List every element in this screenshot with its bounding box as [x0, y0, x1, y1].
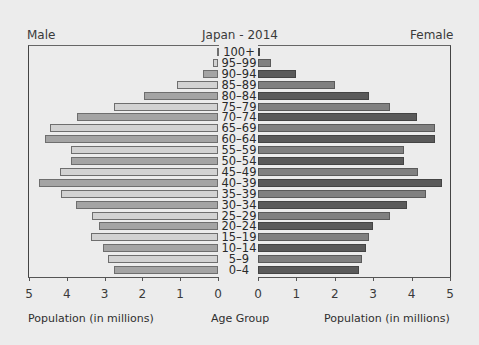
x-tick: [180, 277, 181, 281]
female-bar: [258, 103, 390, 111]
female-label: Female: [410, 28, 453, 42]
female-bar: [258, 113, 417, 121]
male-bar: [213, 59, 218, 67]
female-bar: [258, 59, 271, 67]
female-bar: [258, 233, 369, 241]
x-tick-label: 2: [132, 287, 152, 301]
x-tick: [373, 277, 374, 281]
female-bar: [258, 222, 373, 230]
age-group-tick-label: 0–4: [219, 265, 259, 276]
x-tick-label: 5: [19, 287, 39, 301]
male-bar: [71, 157, 218, 165]
male-bar: [50, 124, 218, 132]
female-bar: [258, 146, 404, 154]
x-tick: [258, 277, 259, 281]
x-tick-label: 4: [402, 287, 422, 301]
female-bar: [258, 70, 296, 78]
male-bar: [177, 81, 218, 89]
female-bar: [258, 244, 366, 252]
female-bar: [258, 179, 442, 187]
x-tick: [450, 277, 451, 281]
x-tick-label: 1: [170, 287, 190, 301]
x-tick-label: 4: [57, 287, 77, 301]
x-tick: [29, 277, 30, 281]
male-bar: [99, 222, 218, 230]
female-bar: [258, 168, 418, 176]
female-bar: [258, 135, 435, 143]
male-bar: [39, 179, 218, 187]
female-bar: [258, 81, 335, 89]
male-bar: [76, 201, 218, 209]
chart-title: Japan - 2014: [202, 28, 278, 42]
x-tick: [67, 277, 68, 281]
female-x-axis: [258, 277, 450, 278]
female-bar: [258, 201, 407, 209]
male-label: Male: [27, 28, 55, 42]
male-bar: [77, 113, 218, 121]
female-bar: [258, 212, 390, 220]
female-bar: [258, 157, 404, 165]
female-bar: [258, 255, 362, 263]
male-bar: [114, 266, 218, 274]
male-x-axis: [28, 277, 218, 278]
x-tick-label: 1: [286, 287, 306, 301]
female-bar: [258, 190, 426, 198]
x-tick-label: 0: [248, 287, 268, 301]
x-tick: [335, 277, 336, 281]
male-bar: [60, 168, 218, 176]
male-bar: [144, 92, 218, 100]
age-group-label: Age Group: [211, 312, 269, 325]
x-tick-label: 0: [208, 287, 228, 301]
x-tick: [412, 277, 413, 281]
male-bar: [108, 255, 218, 263]
male-bar: [114, 103, 218, 111]
male-bar: [45, 135, 218, 143]
x-tick: [142, 277, 143, 281]
x-tick: [218, 277, 219, 281]
male-bar: [103, 244, 218, 252]
x-tick-label: 3: [363, 287, 383, 301]
male-bar: [203, 70, 218, 78]
x-tick: [105, 277, 106, 281]
x-tick-label: 5: [440, 287, 460, 301]
female-bar: [258, 92, 369, 100]
male-x-axis-label: Population (in millions): [28, 312, 154, 325]
male-bar: [71, 146, 218, 154]
female-bar: [258, 124, 435, 132]
x-tick: [296, 277, 297, 281]
male-bar: [91, 233, 218, 241]
x-tick-label: 2: [325, 287, 345, 301]
female-x-axis-label: Population (in millions): [324, 312, 450, 325]
male-bar: [92, 212, 218, 220]
female-bar: [258, 266, 359, 274]
x-tick-label: 3: [95, 287, 115, 301]
male-bar: [61, 190, 218, 198]
